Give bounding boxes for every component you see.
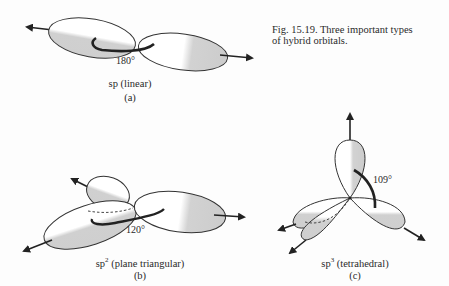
sp2-triangular-diagram bbox=[24, 170, 244, 258]
hybrid-orbitals-figure: Fig. 15.19. Three important types of hyb… bbox=[0, 0, 449, 286]
orbital-name-a: sp (linear) bbox=[109, 78, 152, 89]
caption-line-2: of hybrid orbitals. bbox=[272, 35, 442, 46]
panel-letter-b: (b) bbox=[134, 270, 146, 281]
hybrid-base-b: sp bbox=[96, 258, 105, 269]
hybrid-desc-b: (plane triangular) bbox=[109, 258, 185, 269]
angle-label-a: 180° bbox=[116, 55, 135, 66]
figure-caption: Fig. 15.19. Three important types of hyb… bbox=[272, 24, 442, 46]
panel-letter-a: (a) bbox=[124, 92, 136, 103]
sp-linear-diagram bbox=[27, 12, 252, 76]
angle-label-c: 109° bbox=[373, 174, 392, 185]
hybrid-desc-a: (linear) bbox=[118, 78, 152, 89]
orbital-name-c: sp3 (tetrahedral) bbox=[321, 256, 388, 269]
hybrid-base-a: sp bbox=[109, 78, 118, 89]
sp3-tetrahedral-diagram bbox=[279, 114, 424, 253]
panel-letter-c: (c) bbox=[349, 270, 361, 281]
hybrid-base-c: sp bbox=[321, 258, 330, 269]
orbital-name-b: sp2 (plane triangular) bbox=[96, 256, 185, 269]
hybrid-desc-c: (tetrahedral) bbox=[334, 258, 389, 269]
angle-label-b: 120° bbox=[126, 224, 145, 235]
caption-line-1: Fig. 15.19. Three important types bbox=[272, 24, 442, 35]
